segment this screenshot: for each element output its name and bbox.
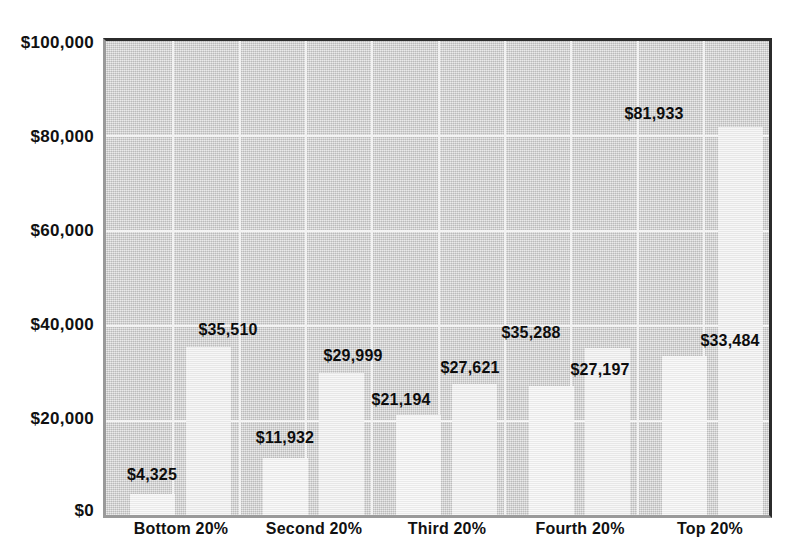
bar-series2-bottom20 xyxy=(186,347,231,515)
bar-series2-top20 xyxy=(718,127,763,515)
bar-chart: $100,000 $80,000 $60,000 $40,000 $20,000… xyxy=(0,0,786,549)
x-axis-label-bottom20: Bottom 20% xyxy=(134,521,228,537)
value-label-series2-second20: $29,999 xyxy=(323,348,382,364)
value-label-series1-top20: $33,484 xyxy=(700,333,759,349)
y-axis-tick-label: $20,000 xyxy=(2,410,94,427)
bar-series1-bottom20 xyxy=(130,494,175,515)
y-axis-tick-label: $60,000 xyxy=(2,222,94,239)
x-axis-label-third20: Third 20% xyxy=(408,521,486,537)
bar-series1-fourth20 xyxy=(529,386,574,515)
value-label-series2-third20: $27,621 xyxy=(440,360,499,376)
value-label-series1-bottom20: $4,325 xyxy=(127,467,177,483)
value-label-series2-top20: $81,933 xyxy=(624,106,683,122)
x-axis-label-top20: Top 20% xyxy=(677,521,743,537)
value-label-series1-fourth20: $27,197 xyxy=(570,362,629,378)
x-axis-label-fourth20: Fourth 20% xyxy=(535,521,624,537)
bar-series1-third20 xyxy=(396,415,441,515)
bar-series2-second20 xyxy=(319,373,364,515)
y-axis-tick-label: $0 xyxy=(2,502,94,519)
y-axis-tick-label: $100,000 xyxy=(2,34,94,51)
value-label-series1-second20: $11,932 xyxy=(256,430,314,446)
bar-series1-second20 xyxy=(263,458,308,515)
bar-series1-top20 xyxy=(662,356,707,515)
gridline-vertical xyxy=(172,41,174,515)
value-label-series2-fourth20: $35,288 xyxy=(501,325,560,341)
gridline-vertical xyxy=(504,41,506,515)
value-label-series1-third20: $21,194 xyxy=(371,392,430,408)
y-axis-tick-label: $80,000 xyxy=(2,128,94,145)
x-axis-label-second20: Second 20% xyxy=(266,521,362,537)
bar-series2-third20 xyxy=(452,384,497,515)
gridline-vertical xyxy=(371,41,373,515)
gridline-vertical xyxy=(239,41,241,515)
value-label-series2-bottom20: $35,510 xyxy=(198,322,257,338)
y-axis-tick-label: $40,000 xyxy=(2,316,94,333)
